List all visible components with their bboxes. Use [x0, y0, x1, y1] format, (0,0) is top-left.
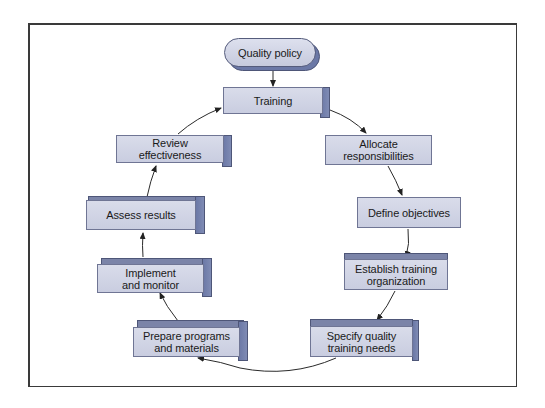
label-line1: Define objectives [368, 207, 450, 219]
label-line1: Prepare programs [143, 330, 230, 342]
box-face: Allocate responsibilities [325, 135, 432, 165]
node-assess: Assess results [86, 200, 196, 230]
box-face: Establish training organization [344, 259, 448, 290]
box-face: Prepare programs and materials [133, 327, 240, 357]
node-quality-policy: Quality policy [224, 38, 316, 67]
box-face: Assess results [86, 200, 196, 230]
label-line2: and monitor [122, 279, 179, 291]
node-implement: Implement and monitor [97, 264, 204, 293]
label-line2: responsibilities [343, 150, 414, 162]
label-line1: Allocate [359, 138, 397, 150]
box-face: Implement and monitor [97, 264, 204, 293]
arrow-prepare-implement [160, 293, 178, 321]
arrow-allocate-define [388, 166, 402, 195]
node-establish: Establish training organization [344, 259, 448, 290]
box-face: Review effectiveness [116, 135, 224, 163]
node-allocate: Allocate responsibilities [325, 135, 432, 165]
node-specify: Specify quality training needs [310, 326, 413, 357]
label-line1: Establish training [355, 263, 437, 275]
arrow-training-allocate [330, 110, 366, 133]
arrow-review-training [178, 108, 221, 134]
label-line2: effectiveness [139, 149, 202, 161]
label-line1: Assess results [106, 209, 176, 221]
label-line1: Specify quality [327, 330, 396, 342]
label-quality-policy: Quality policy [238, 47, 302, 59]
label-line1: Implement [125, 267, 175, 279]
arrow-assess-review [147, 166, 156, 197]
label-line2: organization [367, 275, 426, 287]
node-review: Review effectiveness [116, 135, 224, 163]
label-line2: training needs [328, 342, 396, 354]
label-training: Training [254, 95, 293, 107]
box-face: Define objectives [357, 197, 461, 228]
arrow-implement-assess [143, 233, 144, 257]
label-line2: and materials [154, 342, 219, 354]
label-line1: Review [152, 137, 187, 149]
node-define: Define objectives [357, 197, 461, 228]
pill-face: Quality policy [224, 38, 316, 67]
node-prepare: Prepare programs and materials [133, 327, 240, 357]
arrow-specify-prepare [198, 358, 336, 371]
arrow-establish-specify [377, 291, 395, 320]
node-training: Training [223, 87, 323, 114]
box-face: Training [223, 87, 323, 114]
box-side [195, 196, 205, 234]
box-side [412, 320, 419, 361]
box-face: Specify quality training needs [310, 326, 413, 357]
